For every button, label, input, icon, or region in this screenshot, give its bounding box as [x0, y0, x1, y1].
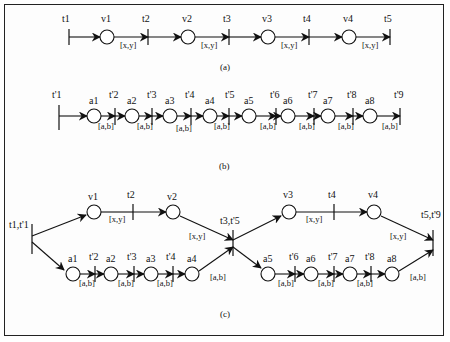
arc	[32, 215, 86, 236]
place-circle	[385, 267, 399, 281]
place-circle	[104, 267, 118, 281]
transition-label: t2	[127, 189, 135, 200]
interval-label: [a,b]	[210, 272, 226, 282]
interval-label: [a,b]	[357, 278, 373, 288]
place-label: a8	[365, 95, 374, 106]
place-label: a7	[345, 253, 354, 264]
arc	[32, 242, 64, 270]
transition-label: t'3	[127, 251, 137, 262]
interval-label: [x,y]	[390, 231, 406, 241]
place-label: a1	[89, 95, 98, 106]
interval-label: [x,y]	[189, 231, 205, 241]
place-circle	[363, 109, 377, 123]
interval-label: [x,y]	[120, 40, 136, 50]
place-label: v1	[88, 191, 98, 202]
place-circle	[166, 205, 180, 219]
interval-label: [x,y]	[306, 214, 322, 224]
place-label: v2	[182, 13, 192, 24]
interval-label: [a,b]	[118, 278, 134, 288]
panel-a: t1 v1 t2 v2 t3 v3 t4 v4 t5 [x,y] [x,y] […	[62, 13, 392, 72]
transition-label: t4	[303, 13, 311, 24]
place-circle	[343, 267, 357, 281]
interval-label: [a,b]	[98, 121, 114, 131]
petri-net-diagram: t1 v1 t2 v2 t3 v3 t4 v4 t5 [x,y] [x,y] […	[0, 0, 450, 342]
place-label: a7	[323, 95, 332, 106]
interval-label: [a,b]	[382, 121, 398, 131]
transition-label: t'6	[289, 251, 299, 262]
transition-label: t3,t'5	[220, 215, 240, 226]
place-circle	[87, 205, 101, 219]
transition-label: t4	[328, 189, 336, 200]
place-label: a1	[68, 253, 77, 264]
place-label: a2	[127, 95, 136, 106]
transition-label: t'8	[347, 89, 357, 100]
transition-label: t'3	[147, 89, 157, 100]
interval-label: [x,y]	[201, 40, 217, 50]
place-label: v2	[167, 191, 177, 202]
place-label: v3	[262, 13, 272, 24]
arc	[399, 250, 433, 271]
transition-label: t5,t'9	[421, 209, 441, 220]
place-circle	[281, 109, 295, 123]
interval-label: [x,y]	[109, 214, 125, 224]
interval-label: [a,b]	[137, 121, 153, 131]
place-label: v4	[343, 13, 353, 24]
transition-label: t'2	[89, 251, 99, 262]
place-label: a2	[106, 253, 115, 264]
interval-label: [a,b]	[176, 123, 192, 133]
place-label: a4	[205, 95, 214, 106]
transition-label: t'7	[308, 89, 318, 100]
place-circle	[181, 30, 195, 44]
caption-c: (c)	[220, 309, 230, 319]
place-circle	[100, 30, 114, 44]
interval-label: [a,b]	[260, 121, 276, 131]
arc	[233, 216, 281, 240]
place-circle	[304, 267, 318, 281]
interval-label: [a,b]	[410, 272, 426, 282]
interval-label: [a,b]	[338, 121, 354, 131]
place-circle	[66, 267, 80, 281]
place-circle	[282, 205, 296, 219]
panel-c: t1,t'1 t3,t'5 t5,t'9 v1 t2 [x,y] v2 [x,y…	[9, 189, 441, 319]
interval-label: [x,y]	[281, 40, 297, 50]
transition-label: t2	[142, 13, 150, 24]
interval-label: [a,b]	[214, 121, 230, 131]
place-label: a5	[244, 95, 253, 106]
transition-label: t'4	[185, 89, 195, 100]
place-circle	[144, 267, 158, 281]
transition-label: t'1	[52, 89, 62, 100]
interval-label: [a,b]	[299, 121, 315, 131]
place-circle	[185, 267, 199, 281]
transition-label: t5	[384, 13, 392, 24]
transition-label: t1,t'1	[9, 219, 29, 230]
place-circle	[242, 109, 256, 123]
place-circle	[261, 267, 275, 281]
transition-label: t'8	[365, 251, 375, 262]
transition-label: t'2	[109, 89, 119, 100]
transition-label: t'4	[166, 251, 176, 262]
place-label: v4	[368, 189, 378, 200]
transition-label: t'9	[394, 89, 404, 100]
transition-label: t'6	[270, 89, 280, 100]
transition-label: t'5	[225, 89, 235, 100]
interval-label: [a,b]	[79, 278, 95, 288]
place-label: v3	[283, 189, 293, 200]
interval-label: [a,b]	[278, 278, 294, 288]
caption-b: (b)	[219, 161, 230, 171]
place-circle	[367, 205, 381, 219]
panel-b: t'1 a1 t'2 a2 t'3 a3 t'4 a4 t'5 a5 t'6 a…	[52, 89, 404, 171]
arc	[199, 247, 233, 271]
place-label: a6	[306, 253, 315, 264]
interval-label: [x,y]	[362, 40, 378, 50]
transition-label: t3	[223, 13, 231, 24]
place-label: a6	[283, 95, 292, 106]
arc	[233, 247, 261, 268]
place-circle	[163, 109, 177, 123]
transition-label: t1	[62, 13, 70, 24]
interval-label: [a,b]	[318, 278, 334, 288]
place-circle	[261, 30, 275, 44]
caption-a: (a)	[220, 62, 230, 72]
transition-label: t'7	[328, 251, 338, 262]
place-label: a5	[263, 253, 272, 264]
place-label: a8	[387, 253, 396, 264]
